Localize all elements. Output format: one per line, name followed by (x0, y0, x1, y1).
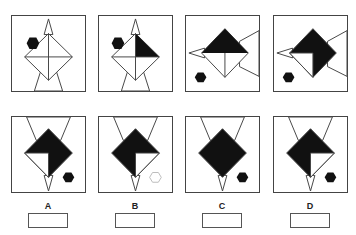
hexagon-outline-icon (150, 173, 162, 183)
option-panel-d[interactable] (273, 116, 348, 193)
hexagon-icon (195, 72, 207, 82)
figure-diamond-icon (99, 16, 172, 91)
answer-box-d[interactable] (290, 213, 330, 228)
option-panel-a[interactable] (11, 116, 86, 193)
option-label-d: D (290, 201, 330, 211)
answer-box-b[interactable] (115, 213, 155, 228)
sequence-panel-4 (273, 15, 348, 92)
option-label-a: A (28, 201, 68, 211)
option-panel-c[interactable] (185, 116, 260, 193)
hexagon-icon (237, 173, 249, 183)
figure-diamond-icon (12, 117, 85, 192)
hexagon-icon (63, 173, 75, 183)
figure-diamond-icon (186, 117, 259, 192)
figure-diamond-icon (274, 117, 347, 192)
option-label-c: C (202, 201, 242, 211)
option-label-b: B (115, 201, 155, 211)
figure-diamond-icon (12, 16, 85, 91)
answer-box-a[interactable] (28, 213, 68, 228)
figure-diamond-icon (99, 117, 172, 192)
figure-diamond-icon (274, 16, 347, 91)
option-panel-b[interactable] (98, 116, 173, 193)
sequence-panel-3 (185, 15, 260, 92)
figure-diamond-icon (186, 16, 259, 91)
answer-box-c[interactable] (202, 213, 242, 228)
hexagon-icon (283, 72, 295, 82)
sequence-panel-1 (11, 15, 86, 92)
sequence-panel-2 (98, 15, 173, 92)
hexagon-icon (325, 173, 337, 183)
